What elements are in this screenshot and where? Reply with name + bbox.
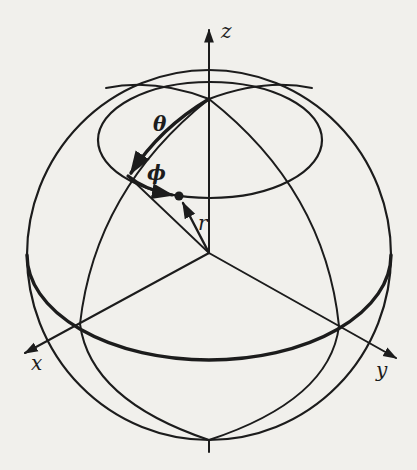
phi-label: ϕ xyxy=(147,163,166,183)
y-axis-label: y xyxy=(376,360,387,380)
x-axis xyxy=(25,253,209,353)
r-label: r xyxy=(198,213,208,233)
point-p xyxy=(175,192,184,201)
diagram-canvas xyxy=(0,0,417,470)
z-axis-label: z xyxy=(221,21,232,41)
x-axis-label: x xyxy=(31,353,42,373)
projection-line xyxy=(128,176,209,253)
spherical-coordinates-diagram: z x y θ ϕ r xyxy=(0,0,417,470)
theta-arc xyxy=(131,99,209,173)
theta-label: θ xyxy=(153,114,166,134)
